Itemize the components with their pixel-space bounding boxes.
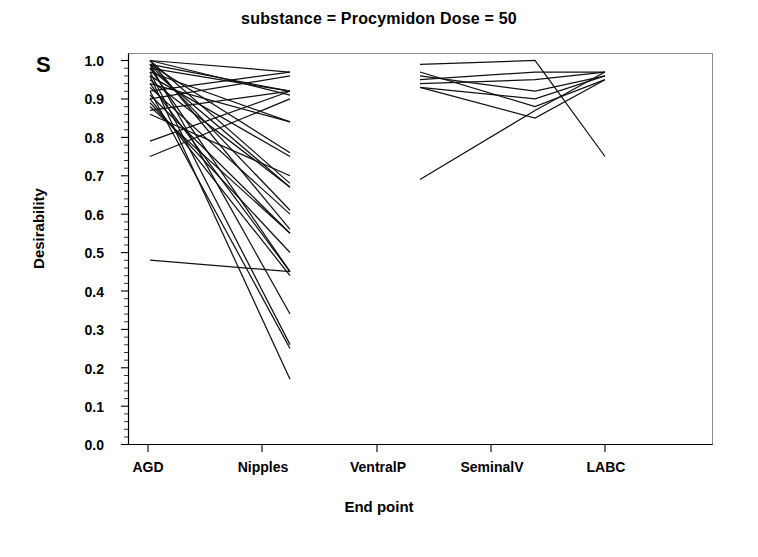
plot-canvas: [0, 0, 758, 557]
series-line: [150, 87, 290, 214]
y-axis-major-ticks: [121, 61, 129, 445]
series-line: [150, 103, 290, 253]
chart-figure: substance = Procymidon Dose = 50 S Desir…: [0, 0, 758, 557]
series-line: [150, 72, 290, 345]
x-axis-ticks: [148, 445, 605, 453]
series-line: [150, 91, 290, 348]
series-line: [420, 72, 605, 107]
plot-frame: [129, 54, 713, 445]
series-layer: [150, 61, 605, 380]
series-line: [150, 260, 290, 272]
series-line: [420, 72, 605, 80]
